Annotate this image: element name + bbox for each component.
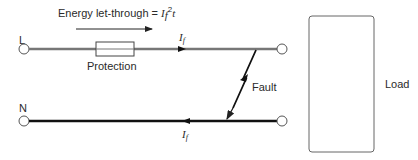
line-current-label: If: [178, 31, 187, 45]
neutral-terminal-icon: [19, 116, 29, 126]
load-label: Load: [385, 78, 409, 90]
load-line-terminal-icon: [277, 44, 287, 54]
energy-let-through-annotation: Energy let-through = If2t: [58, 5, 176, 29]
load-neutral-terminal-icon: [277, 116, 287, 126]
line-terminal-icon: [19, 44, 29, 54]
line-current-arrow-icon: [178, 46, 186, 52]
energy-text: Energy let-through = If2t: [58, 5, 176, 21]
protection-label: Protection: [87, 60, 137, 72]
neutral-current-arrow-icon: [182, 118, 190, 124]
load-box: [309, 16, 374, 152]
fault-circuit-diagram: Energy let-through = If2t L Protection I…: [0, 0, 418, 160]
neutral-terminal-label: N: [19, 102, 27, 114]
fault-label: Fault: [252, 81, 276, 93]
neutral-current-label: If: [181, 128, 190, 142]
